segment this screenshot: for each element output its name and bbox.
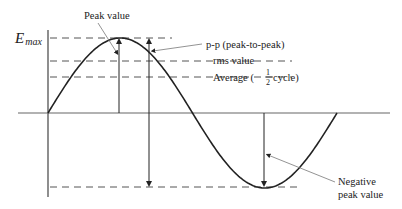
pp-label: p-p (peak-to-peak) xyxy=(206,39,285,51)
svg-text:Average (: Average ( xyxy=(213,72,254,84)
peak-value-label: Peak value xyxy=(84,10,130,21)
emax-label: Emax xyxy=(14,30,42,47)
sine-wave-diagram: Emax Peak value p-p (peak-to-peak) rms v… xyxy=(0,0,402,209)
svg-text:1: 1 xyxy=(266,68,270,77)
svg-text:cycle): cycle) xyxy=(273,72,299,84)
negative-peak-label-line2: peak value xyxy=(338,189,384,200)
svg-text:2: 2 xyxy=(266,78,270,87)
negative-peak-label-line1: Negative xyxy=(338,176,376,187)
negative-peak-leader xyxy=(268,155,335,182)
pp-leader xyxy=(153,44,202,51)
rms-label: rms value xyxy=(213,55,254,66)
